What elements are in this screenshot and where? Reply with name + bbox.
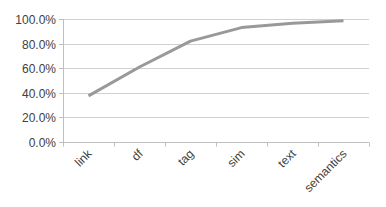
y-tick-label: 0.0% xyxy=(29,136,57,150)
x-tick-label: tag xyxy=(175,147,197,169)
y-tick-label: 80.0% xyxy=(22,38,56,52)
x-tick-label: sim xyxy=(225,147,248,170)
data-series xyxy=(89,21,344,96)
y-tick-label: 100.0% xyxy=(15,13,56,27)
x-tick-label: semantics xyxy=(302,147,350,195)
x-tick-label: link xyxy=(72,146,95,169)
x-axis-ticks: linkdftagsimtextsemantics xyxy=(72,146,350,195)
x-tick-label: df xyxy=(129,146,146,163)
y-tick-label: 40.0% xyxy=(22,87,56,101)
y-tick-label: 60.0% xyxy=(22,62,56,76)
y-tick-label: 20.0% xyxy=(22,111,56,125)
y-axis-ticks: 0.0%20.0%40.0%60.0%80.0%100.0% xyxy=(15,13,63,150)
line-chart: 0.0%20.0%40.0%60.0%80.0%100.0% linkdftag… xyxy=(0,0,386,207)
series-line xyxy=(89,21,344,96)
x-tick-label: text xyxy=(275,146,299,170)
